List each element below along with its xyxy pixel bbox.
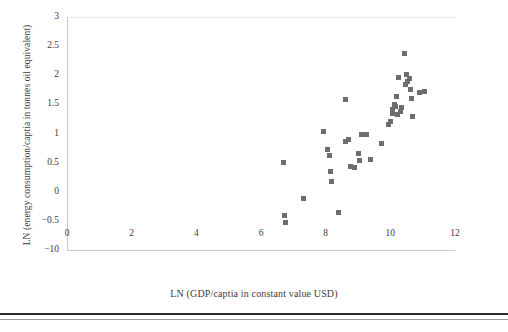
scatter-point — [327, 153, 332, 158]
scatter-point — [409, 96, 414, 101]
scatter-point — [329, 179, 334, 184]
scatter-point — [281, 160, 286, 165]
y-axis-title: LN (energy consumption/captia in tonnes … — [22, 20, 32, 250]
scatter-point — [346, 137, 351, 142]
scatter-point — [364, 132, 369, 137]
scatter-point — [301, 196, 306, 201]
footer-rule-thick — [0, 313, 508, 315]
scatter-plot-figure: 32.521.510.50−0.5−10 024681012 LN (energ… — [0, 0, 508, 332]
scatter-point — [343, 97, 348, 102]
scatter-point — [388, 119, 393, 124]
scatter-point — [336, 210, 341, 215]
scatter-point — [357, 158, 362, 163]
scatter-point — [399, 105, 404, 110]
scatter-point — [356, 151, 361, 156]
scatter-point — [283, 220, 288, 225]
scatter-point — [394, 94, 399, 99]
scatter-point — [407, 76, 412, 81]
scatter-point — [408, 87, 413, 92]
scatter-point — [410, 114, 415, 119]
scatter-point — [368, 157, 373, 162]
x-axis-title: LN (GDP/captia in constant value USD) — [0, 288, 508, 299]
scatter-point — [282, 213, 287, 218]
scatter-point — [321, 129, 326, 134]
scatter-point — [379, 141, 384, 146]
scatter-point — [402, 51, 407, 56]
scatter-point — [328, 169, 333, 174]
scatter-point — [352, 165, 357, 170]
scatter-point — [422, 89, 427, 94]
scatter-point — [325, 147, 330, 152]
scatter-points-layer — [0, 0, 508, 332]
footer-rule-thin — [0, 319, 508, 320]
scatter-point — [396, 75, 401, 80]
